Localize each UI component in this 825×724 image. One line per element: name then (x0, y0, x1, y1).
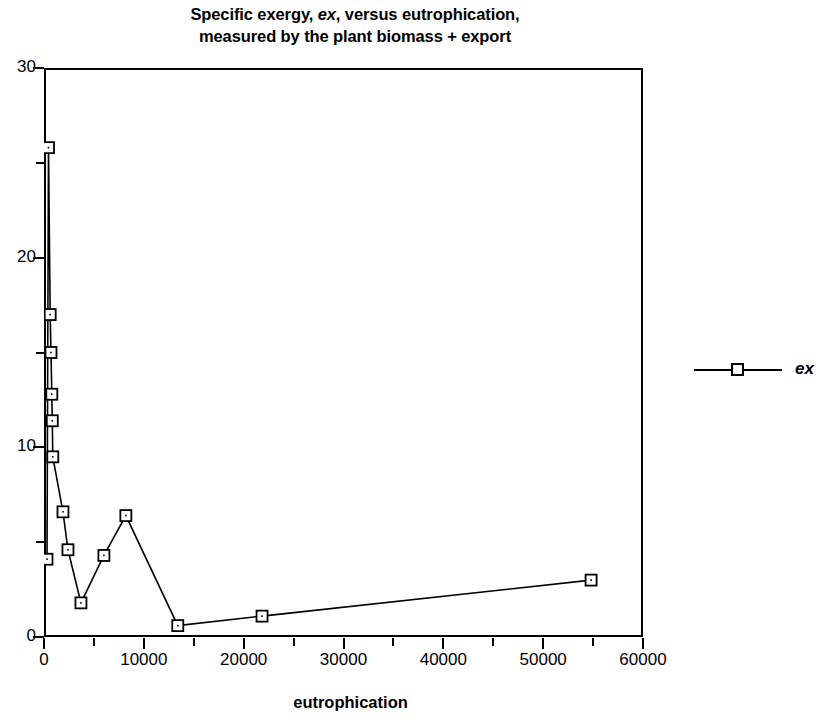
chart-title: Specific exergy, ex, versus eutrophicati… (95, 3, 615, 47)
data-point-center (62, 511, 64, 513)
data-point-center (67, 549, 69, 551)
legend-label: ex (795, 359, 814, 379)
data-point-center (46, 558, 48, 560)
x-axis-tick-major (43, 638, 45, 649)
chart-title-line1: Specific exergy, ex, versus eutrophicati… (190, 5, 519, 23)
x-axis-tick-major (642, 638, 644, 649)
x-axis-tick-label: 40000 (398, 650, 488, 670)
data-point-center (80, 602, 82, 604)
data-point-center (49, 314, 51, 316)
x-axis-tick-label: 60000 (598, 650, 688, 670)
data-point-center (177, 625, 179, 627)
x-axis-tick-major (542, 638, 544, 649)
x-axis-title: eutrophication (243, 693, 458, 712)
data-point-center (48, 147, 50, 149)
x-axis-tick-major (243, 638, 245, 649)
x-axis-tick-label: 20000 (199, 650, 289, 670)
y-axis-tick-minor (36, 352, 44, 354)
data-point-center (590, 579, 592, 581)
chart-title-line1-post: , versus eutrophication, (336, 5, 520, 23)
data-point-center (51, 393, 53, 395)
series-line (47, 148, 591, 626)
y-axis-tick-label: 0 (0, 626, 36, 646)
y-axis-tick-label: 10 (0, 436, 36, 456)
y-axis-tick-minor (36, 162, 44, 164)
x-axis-tick-minor (193, 638, 195, 646)
x-axis-tick-label: 0 (0, 650, 89, 670)
chart-legend: ex (694, 352, 819, 392)
data-point-center (261, 615, 263, 617)
data-point-center (50, 352, 52, 354)
x-axis-tick-major (442, 638, 444, 649)
data-point-center (125, 515, 127, 517)
x-axis-tick-major (143, 638, 145, 649)
data-point-center (52, 456, 54, 458)
legend-square-marker-icon (731, 363, 744, 376)
y-axis-tick-label: 20 (0, 247, 36, 267)
data-point-marker (44, 554, 53, 565)
y-axis-tick-label: 30 (0, 57, 36, 77)
chart-title-line1-italic: ex (318, 5, 336, 23)
x-axis-tick-major (343, 638, 345, 649)
data-point-center (51, 420, 53, 422)
x-axis-tick-label: 50000 (498, 650, 588, 670)
x-axis-tick-minor (492, 638, 494, 646)
x-axis-tick-label: 10000 (99, 650, 189, 670)
chart-page: Specific exergy, ex, versus eutrophicati… (0, 0, 825, 724)
y-axis-tick-minor (36, 541, 44, 543)
x-axis-tick-minor (293, 638, 295, 646)
plot-series-canvas (44, 68, 643, 637)
x-axis-tick-minor (392, 638, 394, 646)
data-point-center (103, 555, 105, 557)
x-axis-tick-label: 30000 (299, 650, 389, 670)
x-axis-tick-minor (592, 638, 594, 646)
chart-title-line1-pre: Specific exergy, (190, 5, 317, 23)
x-axis-tick-minor (93, 638, 95, 646)
chart-title-line2: measured by the plant biomass + export (199, 27, 511, 45)
